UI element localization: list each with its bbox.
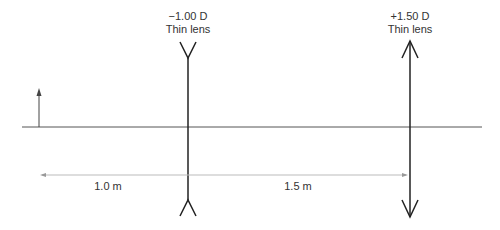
lens-label-diverging: −1.00 D Thin lens: [143, 10, 233, 36]
distance-label-2: 1.5 m: [268, 180, 328, 192]
object-arrow-icon: [37, 88, 42, 127]
lens-label-converging: +1.50 D Thin lens: [365, 10, 455, 36]
lens-power: −1.00 D: [143, 10, 233, 23]
dimension-line: [40, 173, 408, 177]
converging-lens-icon: [402, 41, 418, 217]
distance-label-1: 1.0 m: [78, 180, 138, 192]
diverging-lens-icon: [180, 42, 196, 216]
lens-power: +1.50 D: [365, 10, 455, 23]
lens-type: Thin lens: [143, 23, 233, 36]
lens-type: Thin lens: [365, 23, 455, 36]
